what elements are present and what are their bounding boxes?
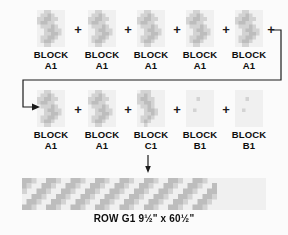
down-arrow-icon <box>145 155 151 173</box>
plus-sign-r1-3: + <box>171 24 183 36</box>
block-label-line1: BLOCK <box>173 130 227 141</box>
plus-sign-r1-1: + <box>72 24 84 36</box>
block-label-r1-c1: BLOCK A1 <box>24 50 78 71</box>
block-tile-r1-c1 <box>37 10 65 47</box>
block-label-r1-c5: BLOCK A1 <box>222 50 276 71</box>
block-label-line2: A1 <box>24 141 78 152</box>
block-label-r2-c1: BLOCK A1 <box>24 130 78 151</box>
block-label-line1: BLOCK <box>75 50 129 61</box>
block-label-line1: BLOCK <box>222 50 276 61</box>
block-label-r2-c4: BLOCK B1 <box>173 130 227 151</box>
block-tile-r1-c3 <box>137 10 165 47</box>
block-tile-r1-c4 <box>186 10 214 47</box>
block-label-line1: BLOCK <box>173 50 227 61</box>
plus-sign-r2-4: + <box>220 104 232 116</box>
block-label-r2-c2: BLOCK A1 <box>75 130 129 151</box>
block-tile-r1-c5 <box>235 10 263 47</box>
block-label-r1-c3: BLOCK A1 <box>124 50 178 71</box>
assembled-row-strip <box>22 178 266 210</box>
plus-sign-r2-2: + <box>122 104 134 116</box>
block-label-line2: A1 <box>75 61 129 72</box>
block-label-line2: A1 <box>24 61 78 72</box>
block-label-line1: BLOCK <box>124 130 178 141</box>
block-label-line2: B1 <box>222 141 276 152</box>
block-label-line2: A1 <box>75 141 129 152</box>
block-label-line2: A1 <box>222 61 276 72</box>
plus-sign-r1-4: + <box>220 24 232 36</box>
block-label-line1: BLOCK <box>24 130 78 141</box>
plus-sign-r1-5: + <box>265 24 277 36</box>
block-label-line2: C1 <box>124 141 178 152</box>
block-label-line2: A1 <box>173 61 227 72</box>
plus-sign-r1-2: + <box>122 24 134 36</box>
plus-sign-r2-3: + <box>171 104 183 116</box>
block-label-line1: BLOCK <box>124 50 178 61</box>
block-label-r1-c2: BLOCK A1 <box>75 50 129 71</box>
block-tile-r2-c5 <box>235 90 263 127</box>
block-label-line1: BLOCK <box>222 130 276 141</box>
block-label-line1: BLOCK <box>75 130 129 141</box>
block-label-r1-c4: BLOCK A1 <box>173 50 227 71</box>
block-label-r2-c5: BLOCK B1 <box>222 130 276 151</box>
block-tile-r2-c4 <box>186 90 214 127</box>
block-label-line2: B1 <box>173 141 227 152</box>
block-tile-r1-c2 <box>88 10 116 47</box>
block-tile-r2-c2 <box>88 90 116 127</box>
block-label-line2: A1 <box>124 61 178 72</box>
block-tile-r2-c3 <box>137 90 165 127</box>
block-label-line1: BLOCK <box>24 50 78 61</box>
row-caption: ROW G1 9½" x 60½" <box>0 213 288 224</box>
plus-sign-r2-1: + <box>72 104 84 116</box>
block-tile-r2-c1 <box>37 90 65 127</box>
block-label-r2-c3: BLOCK C1 <box>124 130 178 151</box>
quilt-assembly-diagram: + + + + + BLOCK A1 BLOCK A1 BLOCK A1 BLO… <box>0 0 288 235</box>
